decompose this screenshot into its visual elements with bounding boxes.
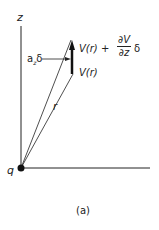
potential-lower-label: V(r) <box>79 68 98 78</box>
potential-upper-label: V(r) + <box>79 44 109 54</box>
charge-label: q <box>7 165 14 176</box>
pointer-arrowhead <box>65 57 71 61</box>
displacement-arrowhead <box>69 40 75 50</box>
charge-dot <box>18 165 25 172</box>
figure-caption: (a) <box>76 206 90 216</box>
diagram-canvas <box>0 0 159 230</box>
partial-derivative: ∂V ∂z <box>117 35 131 58</box>
position-label: r <box>53 102 57 112</box>
position-vector-lower <box>21 74 73 168</box>
z-axis-label: z <box>17 12 23 23</box>
partial-delta: δ <box>134 44 140 54</box>
displacement-label: azδ <box>27 54 42 66</box>
